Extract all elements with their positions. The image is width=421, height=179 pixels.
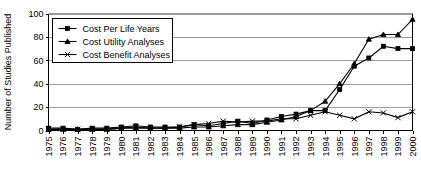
line-chart: 020406080100 197519761977197819791980198…: [0, 0, 421, 179]
x-tick-label: 1986: [204, 137, 214, 157]
x-tick-label: 1995: [335, 137, 345, 157]
chart-legend: Cost Per Life YearsCost Utility Analyses…: [53, 19, 173, 63]
data-point-marker-triangle: [352, 61, 357, 66]
x-tick-label: 1980: [117, 137, 127, 157]
x-tick-label: 1984: [175, 137, 185, 157]
y-tick-label: 100: [28, 9, 43, 19]
x-tick-label: 1977: [73, 137, 83, 157]
x-tick-label: 2000: [408, 137, 418, 157]
data-point-marker-x: [395, 115, 400, 120]
series-line-path: [49, 112, 413, 130]
y-tick-label: 60: [33, 56, 43, 66]
x-tick-label: 1993: [306, 137, 316, 157]
x-tick-label: 1997: [364, 137, 374, 157]
x-tick-label: 1979: [102, 137, 112, 157]
x-tick-label: 1996: [350, 137, 360, 157]
x-tick-label: 1983: [160, 137, 170, 157]
y-tick-label: 20: [33, 102, 43, 112]
x-tick-label: 1981: [131, 137, 141, 157]
x-tick-label: 1992: [291, 137, 301, 157]
y-axis-ticks: 020406080100: [28, 9, 48, 136]
y-axis-title-text: Number of Studies Published: [3, 14, 13, 131]
chart-container: 020406080100 197519761977197819791980198…: [0, 0, 421, 179]
x-tick-label: 1985: [190, 137, 200, 157]
data-point-marker-square: [367, 56, 371, 60]
data-point-marker-square: [411, 47, 415, 51]
x-tick-label: 1989: [248, 137, 258, 157]
x-tick-label: 1991: [277, 137, 287, 157]
data-point-marker-triangle: [410, 17, 415, 22]
x-tick-label: 1982: [146, 137, 156, 157]
x-tick-label: 1990: [262, 137, 272, 157]
legend-item-label: Cost Benefit Analyses: [83, 50, 171, 60]
y-axis-title: Number of Studies Published: [3, 14, 13, 131]
data-point-marker-square: [396, 47, 400, 51]
legend-item-label: Cost Per Life Years: [83, 24, 161, 34]
data-point-marker-square: [66, 27, 70, 31]
y-tick-label: 0: [38, 126, 43, 136]
x-tick-label: 1998: [379, 137, 389, 157]
legend-item-label: Cost Utility Analyses: [83, 37, 165, 47]
x-axis-ticks: 1975197619771978197919801981198219831984…: [44, 131, 418, 157]
x-tick-label: 1994: [321, 137, 331, 157]
x-tick-label: 1987: [219, 137, 229, 157]
y-tick-label: 80: [33, 32, 43, 42]
x-tick-label: 1999: [393, 137, 403, 157]
x-tick-label: 1978: [88, 137, 98, 157]
x-tick-label: 1975: [44, 137, 54, 157]
y-tick-label: 40: [33, 79, 43, 89]
data-point-marker-square: [381, 44, 385, 48]
x-tick-label: 1976: [58, 137, 68, 157]
data-point-marker-square: [338, 88, 342, 92]
x-tick-label: 1988: [233, 137, 243, 157]
